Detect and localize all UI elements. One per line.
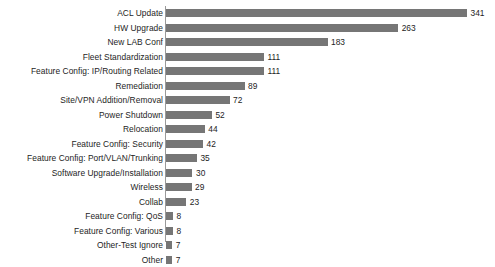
- category-label: Fleet Standardization: [83, 50, 163, 65]
- bar: [166, 38, 328, 46]
- bar: [166, 198, 186, 206]
- category-label: Feature Config: Security: [71, 137, 163, 152]
- bar: [166, 241, 172, 249]
- bar-row: New LAB Conf183: [0, 35, 495, 50]
- category-label: Relocation: [123, 122, 163, 137]
- bar: [166, 96, 230, 104]
- bar-value-label: 42: [207, 137, 216, 152]
- bar-row: Feature Config: IP/Routing Related111: [0, 64, 495, 79]
- bar-and-value: 263: [166, 21, 416, 36]
- bar-and-value: 8: [166, 224, 181, 239]
- category-label: Feature Config: Various: [74, 224, 163, 239]
- bar-row: HW Upgrade263: [0, 21, 495, 36]
- category-label: Collab: [139, 195, 163, 210]
- bar-value-label: 7: [176, 253, 181, 267]
- category-label: ACL Update: [117, 6, 163, 21]
- bar: [166, 169, 192, 177]
- bar-row: Wireless29: [0, 180, 495, 195]
- bar: [166, 111, 212, 119]
- bar-and-value: 7: [166, 238, 180, 253]
- bar-row: Site/VPN Addition/Removal72: [0, 93, 495, 108]
- bar-and-value: 44: [166, 122, 218, 137]
- bar: [166, 212, 173, 220]
- category-label: Other-Test Ignore: [97, 238, 163, 253]
- category-label: Wireless: [130, 180, 163, 195]
- bar-row: ACL Update341: [0, 6, 495, 21]
- bar-value-label: 111: [267, 64, 280, 79]
- bar: [166, 140, 203, 148]
- bar-and-value: 111: [166, 50, 280, 65]
- bar-and-value: 23: [166, 195, 199, 210]
- bar-row: Feature Config: QoS8: [0, 209, 495, 224]
- bar-and-value: 341: [166, 6, 484, 21]
- bar-row: Power Shutdown52: [0, 108, 495, 123]
- bar-and-value: 52: [166, 108, 225, 123]
- bar: [166, 227, 173, 235]
- bar-row: Fleet Standardization111: [0, 50, 495, 65]
- bar: [166, 82, 245, 90]
- bar-and-value: 183: [166, 35, 345, 50]
- bar-value-label: 8: [177, 209, 182, 224]
- bar-row: Relocation44: [0, 122, 495, 137]
- bar-and-value: 89: [166, 79, 257, 94]
- bar-value-label: 23: [190, 195, 199, 210]
- bar-and-value: 35: [166, 151, 210, 166]
- bar-value-label: 89: [248, 79, 257, 94]
- category-label: Feature Config: IP/Routing Related: [31, 64, 163, 79]
- bar-value-label: 111: [267, 50, 280, 65]
- bar: [166, 24, 398, 32]
- bar-value-label: 52: [215, 108, 224, 123]
- category-label: Software Upgrade/Installation: [52, 166, 163, 181]
- bar-row: Software Upgrade/Installation30: [0, 166, 495, 181]
- category-label: Remediation: [115, 79, 163, 94]
- category-label: Feature Config: Port/VLAN/Trunking: [27, 151, 163, 166]
- category-label: Power Shutdown: [99, 108, 163, 123]
- bar-and-value: 8: [166, 209, 181, 224]
- category-label: Site/VPN Addition/Removal: [60, 93, 163, 108]
- bar-row: Remediation89: [0, 79, 495, 94]
- bar-row: Collab23: [0, 195, 495, 210]
- bar-value-label: 30: [196, 166, 205, 181]
- bar-and-value: 42: [166, 137, 216, 152]
- bar-value-label: 44: [208, 122, 217, 137]
- bar-value-label: 72: [233, 93, 242, 108]
- category-label: Other: [142, 253, 163, 267]
- bar-and-value: 7: [166, 253, 180, 267]
- bar-row: Feature Config: Port/VLAN/Trunking35: [0, 151, 495, 166]
- bar: [166, 125, 205, 133]
- category-label: HW Upgrade: [114, 21, 163, 36]
- bar-value-label: 29: [195, 180, 204, 195]
- bar-row: Feature Config: Security42: [0, 137, 495, 152]
- bar: [166, 53, 264, 61]
- bar: [166, 9, 467, 17]
- bar-value-label: 8: [177, 224, 182, 239]
- bar-and-value: 30: [166, 166, 205, 181]
- bar-row: Other7: [0, 253, 495, 267]
- bar-value-label: 263: [402, 21, 416, 36]
- bar: [166, 154, 197, 162]
- category-label: Feature Config: QoS: [85, 209, 163, 224]
- bar-row: Other-Test Ignore7: [0, 238, 495, 253]
- bar-and-value: 72: [166, 93, 242, 108]
- bar-value-label: 35: [200, 151, 209, 166]
- bar-value-label: 7: [176, 238, 181, 253]
- bar-and-value: 111: [166, 64, 280, 79]
- bar: [166, 183, 192, 191]
- bar-value-label: 341: [471, 6, 485, 21]
- bar-row: Feature Config: Various8: [0, 224, 495, 239]
- bar: [166, 256, 172, 264]
- bar-and-value: 29: [166, 180, 204, 195]
- bar-value-label: 183: [331, 35, 345, 50]
- category-label: New LAB Conf: [107, 35, 163, 50]
- bar: [166, 67, 264, 75]
